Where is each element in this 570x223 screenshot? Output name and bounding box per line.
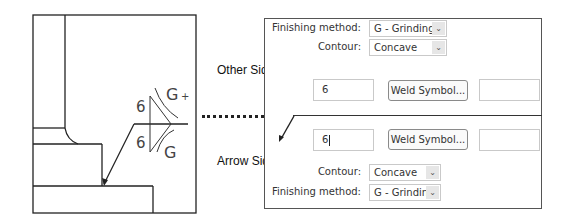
arrow-size-input[interactable]: 6: [313, 129, 374, 151]
arrow-side-finish-text: G: [164, 143, 176, 162]
other-size-input[interactable]: 6: [313, 79, 374, 101]
weld-settings-panel: Finishing method: G - Grinding ⌄ Contour…: [264, 18, 542, 209]
other-side-finish-text: G: [166, 85, 178, 104]
arrow-length-input[interactable]: [479, 129, 540, 151]
arrow-finishing-method-label: Finishing method:: [265, 186, 361, 197]
text-caret: [329, 135, 330, 146]
reference-line: [293, 115, 542, 116]
other-length-input[interactable]: [479, 79, 540, 101]
arrow-contour-label: Contour:: [265, 166, 361, 177]
chevron-down-icon[interactable]: ⌄: [432, 22, 445, 35]
arrow-contour-select[interactable]: Concave ⌄: [369, 164, 441, 181]
other-weld-symbol-button[interactable]: Weld Symbol...: [388, 80, 468, 101]
other-contour-label: Contour:: [265, 41, 361, 52]
leader-arrow-icon: [275, 113, 297, 143]
arrow-weld-symbol-button[interactable]: Weld Symbol...: [388, 129, 468, 150]
dotted-connector: [202, 115, 264, 118]
other-finishing-method-select[interactable]: G - Grinding ⌄: [369, 20, 447, 37]
drawing-frame: [33, 15, 196, 213]
weld-drawing: 6 G + 6 G: [0, 0, 200, 223]
chevron-down-icon[interactable]: ⌄: [432, 41, 445, 54]
arrow-finishing-method-select[interactable]: G - Grinding ⌄: [369, 184, 441, 201]
chevron-down-icon[interactable]: ⌄: [426, 166, 439, 179]
other-contour-select[interactable]: Concave ⌄: [369, 39, 447, 56]
other-side-size-text: 6: [136, 98, 146, 116]
arrow-side-size-text: 6: [136, 134, 146, 152]
chevron-down-icon[interactable]: ⌄: [426, 186, 439, 199]
other-side-extra-text: +: [181, 91, 189, 102]
other-finishing-method-label: Finishing method:: [265, 22, 361, 33]
